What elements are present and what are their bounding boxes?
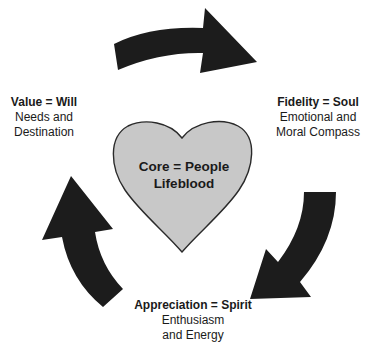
node-appreciation-line-2: and Energy (118, 328, 268, 343)
arrow-appreciation-to-value (42, 176, 123, 307)
node-fidelity-line-2: Moral Compass (266, 125, 370, 140)
node-fidelity-title: Fidelity = Soul (266, 95, 370, 110)
node-appreciation: Appreciation = Spirit Enthusiasm and Ene… (118, 298, 268, 343)
arrow-value-to-fidelity (114, 8, 257, 73)
node-value-title: Value = Will (2, 95, 86, 110)
node-fidelity-line-1: Emotional and (266, 110, 370, 125)
node-value-line-2: Destination (2, 125, 86, 140)
node-value-line-1: Needs and (2, 110, 86, 125)
arrow-fidelity-to-appreciation (250, 192, 336, 299)
node-appreciation-line-1: Enthusiasm (118, 313, 268, 328)
core-label: Core = People Lifeblood (122, 158, 246, 192)
node-appreciation-title: Appreciation = Spirit (118, 298, 268, 313)
core-line-1: Core = People (122, 158, 246, 175)
node-value: Value = Will Needs and Destination (2, 95, 86, 140)
core-line-2: Lifeblood (122, 175, 246, 192)
node-fidelity: Fidelity = Soul Emotional and Moral Comp… (266, 95, 370, 140)
